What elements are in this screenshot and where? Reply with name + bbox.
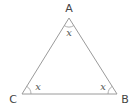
angle-label-c: x xyxy=(35,81,41,92)
vertex-label-b: B xyxy=(121,93,129,106)
angle-label-a: x xyxy=(66,27,72,38)
vertex-label-a: A xyxy=(65,2,73,15)
vertex-label-c: C xyxy=(9,93,17,106)
angle-arc-c xyxy=(27,86,31,94)
angle-label-b: x xyxy=(100,81,106,92)
angle-arc-b xyxy=(108,86,112,94)
triangle-diagram: A B C x x x xyxy=(0,0,133,112)
